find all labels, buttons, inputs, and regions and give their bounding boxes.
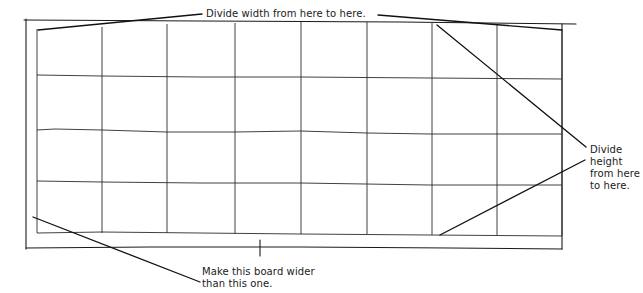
divide-height-line-4: to here. <box>590 180 643 192</box>
height-leader-top <box>437 25 586 147</box>
board-leader <box>33 217 200 282</box>
divide-height-line-3: from here <box>590 168 643 180</box>
leader-lines <box>33 14 586 282</box>
grid-hline-4 <box>37 232 562 236</box>
grid-hline-3 <box>37 181 562 185</box>
divide-height-line-1: Divide <box>590 144 643 156</box>
grid-columns <box>37 22 562 236</box>
grid-rows <box>37 75 562 236</box>
grid-hline-1 <box>37 75 562 79</box>
divide-height-label: Divide height from here to here. <box>590 144 643 192</box>
outer-bottom-line <box>26 247 562 249</box>
board-wider-label: Make this board wider than this one. <box>202 266 332 290</box>
board-wider-line-2: than this one. <box>202 278 332 290</box>
grid-hline-2 <box>37 129 562 134</box>
board-grid-diagram <box>0 0 643 293</box>
board-wider-line-1: Make this board wider <box>202 266 332 278</box>
divide-height-line-2: height <box>590 156 643 168</box>
divide-width-label: Divide width from here to here. <box>204 8 368 20</box>
height-leader-bottom <box>440 160 585 235</box>
width-leader-left <box>38 14 202 30</box>
